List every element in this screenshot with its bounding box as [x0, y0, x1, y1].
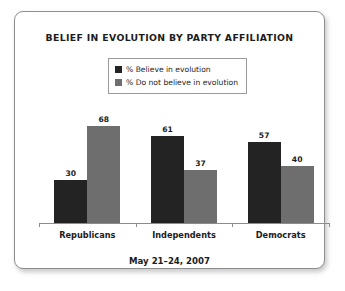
bar-group: 6137	[136, 116, 233, 223]
bar	[87, 126, 120, 223]
footer-date: May 21–24, 2007	[15, 256, 324, 266]
bar-value-label: 61	[151, 125, 184, 134]
bar-column: 30	[54, 180, 87, 223]
chart-page: BELIEF IN EVOLUTION BY PARTY AFFILIATION…	[0, 0, 345, 291]
bar-group-bars: 5740	[232, 116, 329, 223]
bar	[151, 136, 184, 223]
x-axis-tick	[39, 223, 40, 227]
legend-item: % Do not believe in evolution	[115, 76, 238, 89]
plot-area: 306861375740	[39, 116, 329, 223]
bar-value-label: 30	[54, 169, 87, 178]
bar	[248, 142, 281, 223]
bar-column: 57	[248, 142, 281, 223]
category-label: Independents	[136, 230, 233, 240]
bar-group-bars: 3068	[39, 116, 136, 223]
chart-card: BELIEF IN EVOLUTION BY PARTY AFFILIATION…	[14, 11, 325, 269]
category-labels: RepublicansIndependentsDemocrats	[39, 230, 329, 244]
category-label: Democrats	[232, 230, 329, 240]
category-label: Republicans	[39, 230, 136, 240]
chart-title: BELIEF IN EVOLUTION BY PARTY AFFILIATION	[15, 32, 324, 43]
legend-item-label: % Do not believe in evolution	[126, 76, 238, 89]
bar-group: 3068	[39, 116, 136, 223]
x-axis-tick	[136, 223, 137, 227]
bar	[281, 166, 314, 223]
bar-column: 61	[151, 136, 184, 223]
chart-legend: % Believe in evolution% Do not believe i…	[108, 58, 247, 94]
bar-group-bars: 6137	[136, 116, 233, 223]
square-swatch-icon	[115, 79, 122, 86]
bar-value-label: 37	[184, 159, 217, 168]
x-axis-tick	[329, 223, 330, 227]
bar	[54, 180, 87, 223]
square-swatch-icon	[115, 66, 122, 73]
bar-column: 40	[281, 166, 314, 223]
bar-group: 5740	[232, 116, 329, 223]
bar-column: 68	[87, 126, 120, 223]
x-axis-line	[39, 223, 329, 224]
bar-value-label: 68	[87, 115, 120, 124]
legend-item-label: % Believe in evolution	[126, 63, 211, 76]
bar-value-label: 40	[281, 155, 314, 164]
bar-value-label: 57	[248, 131, 281, 140]
legend-item: % Believe in evolution	[115, 63, 238, 76]
bar	[184, 170, 217, 223]
x-axis-tick	[232, 223, 233, 227]
bar-column: 37	[184, 170, 217, 223]
